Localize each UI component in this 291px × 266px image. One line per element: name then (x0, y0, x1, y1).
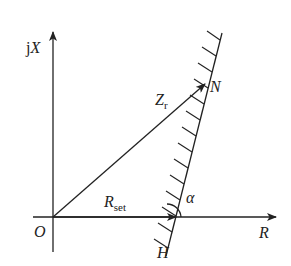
boundary-line (166, 33, 222, 256)
zr-label: Zr (155, 91, 168, 111)
jx-axis-label: jX (25, 39, 41, 57)
boundary-hatching (154, 31, 220, 248)
r-axis-label: R (258, 224, 269, 241)
alpha-label: α (186, 189, 195, 206)
origin-label: O (34, 223, 46, 240)
point-n-label: N (209, 78, 222, 95)
zr-vector (53, 84, 205, 217)
impedance-plane-diagram: jX O R N H Zr Rset α (0, 0, 291, 266)
rset-label: Rset (103, 193, 126, 213)
point-h-label: H (156, 244, 170, 261)
